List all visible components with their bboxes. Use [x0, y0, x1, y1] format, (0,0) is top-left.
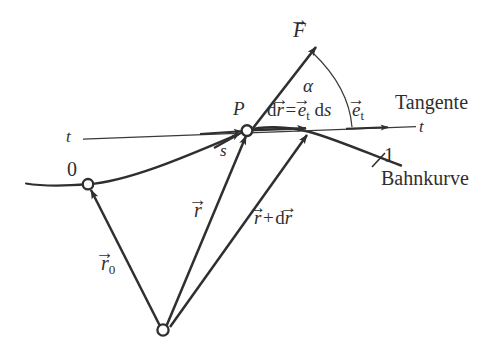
label-displacement-equation: d→r = →et ds	[267, 100, 331, 123]
eq-e: e	[298, 99, 306, 120]
label-bahnkurve: Bahnkurve	[381, 168, 469, 188]
label-tangent-t-left: t	[66, 128, 71, 145]
eq-d: d	[267, 99, 277, 120]
eq-e-subscript: t	[306, 109, 309, 123]
eq-ds-d: d	[314, 99, 324, 120]
eq-equals: =	[286, 99, 297, 120]
trajectory-curve	[26, 127, 401, 185]
label-arclength-s: s	[220, 142, 227, 159]
label-position-vector-r-plus-dr: →r + d→r	[254, 208, 292, 227]
label-point-p: P	[233, 99, 245, 118]
position-vector-r-plus-dr	[170, 135, 307, 327]
position-vector-r	[166, 136, 246, 327]
eq-r: r	[277, 99, 284, 120]
node-marker-point-p	[242, 125, 253, 136]
unit-tangent-symbol: e	[352, 99, 360, 120]
r0-symbol: r	[101, 252, 109, 274]
position-vector-symbol: r	[194, 199, 202, 221]
physics-vector-diagram: →F α P d→r = →et ds →et Tangente t t 1 B…	[0, 0, 491, 348]
eq-ds-s: s	[324, 99, 331, 120]
label-point-zero: 0	[67, 159, 77, 179]
rpdr-dr: r	[285, 207, 292, 228]
label-tangente: Tangente	[395, 92, 468, 112]
rpdr-plus: +	[263, 207, 274, 228]
label-position-vector-r0: →r0	[101, 253, 115, 276]
r0-subscript: 0	[109, 262, 116, 277]
node-marker-point-zero	[83, 179, 93, 189]
rpdr-r: r	[254, 207, 261, 228]
label-position-vector-r: →r	[194, 200, 202, 220]
label-force-vector: →F	[293, 20, 306, 41]
rpdr-d: d	[275, 207, 285, 228]
force-vector-symbol: F	[293, 18, 306, 42]
label-point-one: 1	[384, 145, 394, 165]
unit-tangent-subscript: t	[360, 109, 363, 123]
label-tangent-t-right: t	[419, 118, 424, 135]
label-unit-tangent-vector: →et	[352, 100, 364, 123]
node-marker-origin	[157, 324, 168, 335]
label-angle-alpha: α	[303, 76, 313, 95]
